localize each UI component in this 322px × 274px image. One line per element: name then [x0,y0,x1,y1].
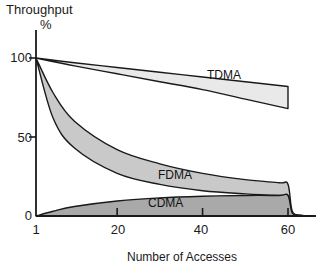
series-label-fdma: FDMA [158,168,192,182]
x-tick-label-60: 60 [273,222,303,237]
series-band-tdma [36,58,288,109]
chart-figure: Throughput % Number of Accesses 100 50 0… [0,0,322,274]
series-label-tdma: TDMA [207,68,241,82]
y-tick-label-100: 100 [4,50,32,65]
x-tick-label-40: 40 [186,222,216,237]
y-tick-label-50: 50 [4,130,32,145]
x-axis-title: Number of Accesses [127,250,237,264]
chart-bands [36,58,314,216]
y-axis-unit-label: % [40,17,52,32]
x-tick-label-1: 1 [21,222,51,237]
y-axis-title-line1: Throughput [6,2,73,17]
y-tick-label-0: 0 [4,208,32,223]
series-label-cdma: CDMA [148,196,183,210]
x-tick-label-20: 20 [103,222,133,237]
